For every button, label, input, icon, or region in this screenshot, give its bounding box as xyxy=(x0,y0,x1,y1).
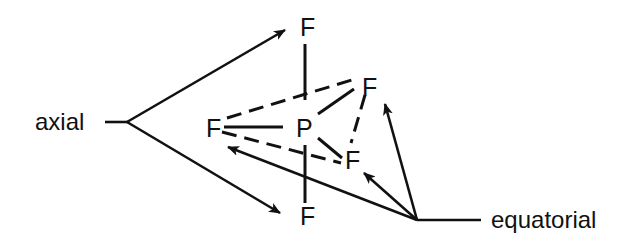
bond-p-to-front-f xyxy=(318,138,342,158)
equatorial-arrow-front xyxy=(364,173,417,220)
equatorial-callout: equatorial xyxy=(228,104,596,233)
equatorial-label: equatorial xyxy=(491,206,596,233)
dashed-back-to-front xyxy=(351,95,365,143)
axial-callout: axial xyxy=(35,30,285,213)
atom-equatorial-front-f: F xyxy=(345,146,360,174)
bonds xyxy=(222,44,365,203)
axial-label: axial xyxy=(35,108,84,135)
atom-axial-bottom-f: F xyxy=(300,202,315,230)
atoms: F F F P F F xyxy=(206,13,377,230)
dashed-left-to-back xyxy=(227,79,355,118)
bond-p-to-back-f xyxy=(318,89,354,114)
atom-axial-top-f: F xyxy=(300,13,315,41)
pf5-structure-diagram: F F F P F F axial equatorial xyxy=(0,0,643,245)
equatorial-arrow-back xyxy=(385,104,417,220)
axial-arrow-bottom xyxy=(127,122,280,213)
atom-equatorial-left-f: F xyxy=(206,114,221,142)
dashed-left-to-front xyxy=(222,132,341,163)
atom-equatorial-back-f: F xyxy=(362,73,377,101)
atom-central-p: P xyxy=(296,114,313,142)
